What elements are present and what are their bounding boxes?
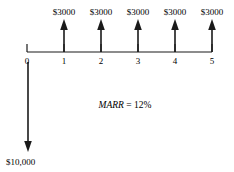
inflow-label-1: $3000 [53,7,76,17]
inflow-label-4: $3000 [164,7,187,17]
cash-flow-diagram: $3000 $3000 $3000 $3000 $3000 0 1 2 3 4 … [0,0,234,172]
inflow-arrow-2 [97,19,105,52]
marr-name: MARR [99,100,124,110]
outflow-arrow-0 [24,62,32,152]
outflow-label-0: $10,000 [6,157,35,167]
marr-equals: = [124,100,134,110]
inflow-arrow-4 [171,19,179,52]
tick-label-0: 0 [25,56,30,66]
tick-label-5: 5 [210,56,215,66]
tick-label-1: 1 [62,56,67,66]
inflow-label-3: $3000 [127,7,150,17]
marr-annotation: MARR = 12% [99,100,152,111]
inflow-arrow-1 [60,19,68,52]
inflow-arrow-3 [134,19,142,52]
tick-label-4: 4 [173,56,178,66]
cash-flow-svg [0,0,234,172]
marr-value: 12% [134,100,151,110]
tick-label-3: 3 [136,56,141,66]
inflow-label-5: $3000 [201,7,224,17]
tick-label-2: 2 [99,56,104,66]
inflow-label-2: $3000 [90,7,113,17]
inflow-arrow-5 [208,19,216,52]
